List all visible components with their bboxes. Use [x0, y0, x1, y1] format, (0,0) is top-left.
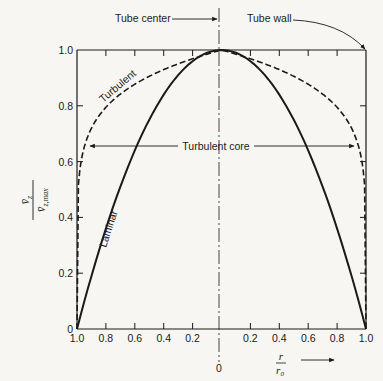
turbulent-core-label: Turbulent core — [182, 140, 249, 152]
y-axis-label: v̄z v̄z,max — [18, 180, 50, 220]
y-tick-label: 0.8 — [58, 100, 73, 112]
svg-text:r0: r0 — [276, 364, 284, 378]
x-axis-label: r r0 — [276, 350, 334, 378]
svg-text:v̄z: v̄z — [18, 195, 34, 204]
y-tick-label: 1.0 — [58, 44, 73, 56]
x-tick-label: 0.8 — [330, 332, 345, 344]
x-tick-label: 0.6 — [301, 332, 316, 344]
x-zero-label: 0 — [216, 362, 222, 374]
laminar-curve — [77, 50, 366, 329]
y-tick-label: 0 — [67, 323, 73, 335]
y-tick-label: 0.6 — [58, 156, 73, 168]
svg-text:r: r — [279, 350, 284, 362]
laminar-label: Laminar — [96, 208, 119, 248]
x-tick-label: 1.0 — [359, 332, 374, 344]
svg-text:v̄z,max: v̄z,max — [34, 188, 50, 212]
velocity-profile-chart: 1.00.80.60.40.20.20.40.60.81.000.20.40.6… — [0, 0, 383, 381]
tube-wall-label: Tube wall — [247, 12, 292, 24]
x-tick-label: 0.8 — [99, 332, 114, 344]
x-tick-label: 0.2 — [185, 332, 200, 344]
x-tick-label: 0.4 — [156, 332, 171, 344]
y-tick-label: 0.2 — [58, 267, 73, 279]
x-tick-label: 0.2 — [243, 332, 258, 344]
y-tick-label: 0.4 — [58, 211, 73, 223]
tube-wall-arrow — [293, 20, 365, 49]
x-tick-label: 0.4 — [272, 332, 287, 344]
x-tick-label: 0.6 — [127, 332, 142, 344]
tube-center-label: Tube center — [115, 12, 171, 24]
